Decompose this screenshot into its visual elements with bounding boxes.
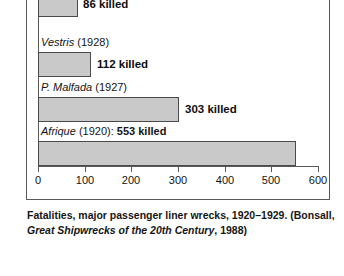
ship-year-vestris: (1928) <box>77 36 109 48</box>
axis-tick-0 <box>38 167 39 172</box>
ship-year-p-malfada: (1927) <box>95 81 127 93</box>
bar-chart-figure: 0 100 200 300 400 500 600 86 killed Vest… <box>0 0 344 276</box>
axis-tick-500 <box>271 167 272 172</box>
caption-source-title: Great Shipwrecks of the 20th Century <box>27 224 214 236</box>
ship-year-afrique: (1920): <box>79 125 114 137</box>
axis-tick-100 <box>85 167 86 172</box>
axis-tick-300 <box>178 167 179 172</box>
axis-tick-label-500: 500 <box>251 174 291 187</box>
caption-line-1: Fatalities, major passenger liner wrecks… <box>27 209 335 221</box>
bar-label-vestris: Vestris (1928) <box>41 36 109 49</box>
bar-112 <box>38 52 91 77</box>
axis-tick-200 <box>131 167 132 172</box>
bar-value-112: 112 killed <box>97 58 148 71</box>
bar-value-86: 86 killed <box>83 0 128 11</box>
ship-name-afrique: Afrique <box>41 125 76 137</box>
axis-tick-label-200: 200 <box>111 174 151 187</box>
bar-label-afrique: Afrique (1920): 553 killed <box>41 125 166 138</box>
axis-tick-label-100: 100 <box>65 174 105 187</box>
axis-tick-label-400: 400 <box>205 174 245 187</box>
axis-tick-600 <box>318 167 319 172</box>
axis-tick-label-600: 600 <box>298 174 338 187</box>
axis-tick-label-0: 0 <box>18 174 58 187</box>
bar-value-303: 303 killed <box>185 103 237 116</box>
bar-value-553: 553 killed <box>117 125 167 137</box>
ship-name-vestris: Vestris <box>41 36 74 48</box>
axis-tick-label-300: 300 <box>158 174 198 187</box>
bar-86 <box>38 0 78 17</box>
figure-caption: Fatalities, major passenger liner wrecks… <box>27 208 335 238</box>
bar-label-p-malfada: P. Malfada (1927) <box>41 81 127 94</box>
ship-name-p-malfada: P. Malfada <box>41 81 92 93</box>
axis-tick-400 <box>225 167 226 172</box>
caption-line-2-tail: , 1988) <box>214 224 247 236</box>
bar-303 <box>38 97 179 122</box>
bar-553 <box>38 141 296 166</box>
